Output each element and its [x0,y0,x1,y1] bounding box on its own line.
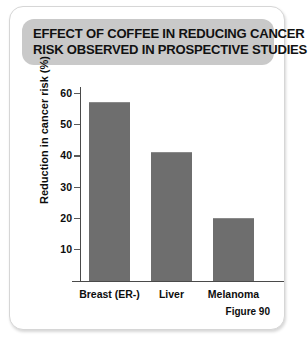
y-axis-line [80,87,81,281]
bar [213,218,254,282]
y-axis-tick [74,249,80,250]
bar [89,102,130,281]
y-axis-tick-label: 50 [32,118,72,130]
y-axis-tick [74,93,80,94]
y-axis-tick-label: 40 [32,149,72,161]
y-axis-tick [74,155,80,156]
figure-card: EFFECT OF COFFEE IN REDUCING CANCER RISK… [9,6,285,330]
bar [151,152,192,281]
y-axis-tick-label: 10 [32,243,72,255]
figure-caption: Figure 90 [226,306,270,317]
x-axis-category-label: Melanoma [184,288,284,300]
y-axis-tick-label: 30 [32,181,72,193]
bar-chart-plot: Reduction in cancer risk (%) 10203040506… [10,7,286,331]
y-axis-tick [74,218,80,219]
y-axis-tick [74,187,80,188]
y-axis-tick [74,124,80,125]
y-axis-tick-label: 60 [32,87,72,99]
y-axis-tick-label: 20 [32,212,72,224]
